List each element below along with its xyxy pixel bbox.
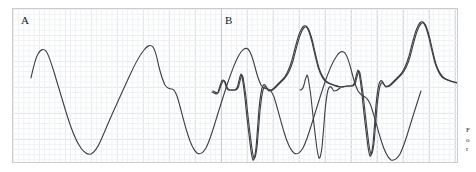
- panel-label-a: A: [21, 15, 29, 26]
- caption-line-1: F: [466, 126, 476, 136]
- caption-line-2: o: [466, 136, 476, 146]
- panel-label-b: B: [225, 15, 233, 26]
- waveform-panel-frame: A B: [12, 8, 458, 163]
- waveform-traces: [13, 9, 458, 163]
- cropped-caption: F o r: [466, 126, 476, 160]
- caption-line-3: r: [466, 145, 476, 155]
- figure-root: A B F o r: [0, 0, 476, 172]
